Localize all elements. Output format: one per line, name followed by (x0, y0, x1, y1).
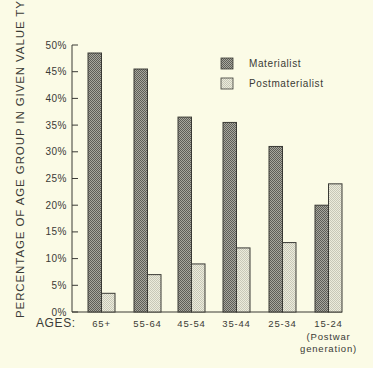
x-tick-label: 15-24 (314, 318, 342, 329)
y-tick-label: 15% (45, 226, 67, 237)
x-sublabel-line2: generation) (300, 343, 357, 354)
bar-group-35-44 (223, 122, 250, 312)
legend-label-materialist: Materialist (249, 58, 301, 69)
legend: Materialist Postmaterialist (221, 58, 324, 89)
x-tick-label: 25-34 (268, 318, 296, 329)
legend-swatch-materialist (221, 58, 233, 69)
y-tick-label: 10% (45, 253, 67, 264)
bar-group-55-64 (134, 69, 161, 312)
y-tick-label: 20% (45, 200, 67, 211)
y-tick-label: 40% (45, 93, 67, 104)
y-axis-title: PERCENTAGE OF AGE GROUP IN GIVEN VALUE T… (14, 0, 26, 318)
x-tick-label: 65+ (92, 318, 111, 329)
bar-materialist-35-44 (223, 122, 237, 312)
legend-swatch-postmaterialist (221, 78, 233, 89)
x-tick-label: 35-44 (222, 318, 250, 329)
x-tick-label: 45-54 (177, 318, 205, 329)
y-tick-label: 5% (52, 280, 67, 291)
bar-materialist-55-64 (134, 69, 148, 312)
x-tick-label: 55-64 (133, 318, 161, 329)
bar-chart: PERCENTAGE OF AGE GROUP IN GIVEN VALUE T… (0, 0, 373, 368)
bar-group-65+ (88, 53, 115, 312)
legend-label-postmaterialist: Postmaterialist (249, 78, 324, 89)
bar-postmaterialist-65+ (102, 293, 116, 312)
x-sublabel-line1: (Postwar (307, 331, 351, 342)
bar-postmaterialist-55-64 (148, 275, 162, 312)
bar-materialist-25-34 (269, 146, 283, 312)
y-tick-label: 25% (45, 173, 67, 184)
bar-materialist-15-24 (315, 205, 329, 312)
y-tick-label: 50% (45, 40, 67, 51)
bar-postmaterialist-15-24 (329, 184, 343, 312)
bar-postmaterialist-25-34 (283, 243, 297, 312)
x-axis-labels: 65+55-6445-5435-4425-3415-24(Postwargene… (92, 318, 357, 354)
bar-postmaterialist-35-44 (237, 248, 251, 312)
x-axis-title: AGES: (36, 316, 76, 330)
bar-materialist-45-54 (178, 117, 192, 312)
bar-materialist-65+ (88, 53, 102, 312)
bar-group-45-54 (178, 117, 205, 312)
y-tick-label: 30% (45, 146, 67, 157)
bar-group-15-24 (315, 184, 342, 312)
y-tick-label: 45% (45, 66, 67, 77)
bars-group (88, 53, 342, 312)
bar-postmaterialist-45-54 (192, 264, 206, 312)
y-tick-label: 35% (45, 120, 67, 131)
bar-group-25-34 (269, 146, 296, 312)
